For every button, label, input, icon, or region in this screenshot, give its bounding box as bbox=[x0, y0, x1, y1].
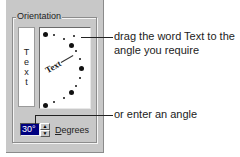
angle-marker-dot-icon bbox=[79, 77, 81, 79]
vertical-text-letter: T bbox=[24, 47, 30, 57]
vertical-text-letter: x bbox=[24, 67, 29, 77]
orientation-group-label: Orientation bbox=[16, 11, 62, 22]
degrees-label-rest: egrees bbox=[62, 125, 90, 135]
triangle-down-icon: ▼ bbox=[43, 130, 48, 136]
annotation-drag-line1: drag the word Text to the bbox=[114, 30, 235, 43]
callout-line-angle bbox=[35, 115, 113, 116]
degrees-input[interactable]: 30° bbox=[20, 123, 40, 136]
vertical-text-option[interactable]: T e x t bbox=[18, 27, 35, 107]
angle-indicator-line bbox=[61, 55, 74, 63]
angle-marker-dot-icon bbox=[53, 101, 55, 103]
degrees-spinner[interactable]: 30° ▲ ▼ bbox=[20, 123, 50, 136]
vertical-text-letter: t bbox=[25, 77, 28, 87]
triangle-up-icon: ▲ bbox=[43, 123, 48, 129]
angle-marker-dot-icon bbox=[73, 35, 75, 37]
angle-marker-neg45-icon[interactable] bbox=[69, 90, 74, 95]
angle-marker-dot-icon bbox=[75, 85, 77, 87]
callout-line-angle-vertical bbox=[35, 115, 36, 124]
angle-marker-90-icon[interactable] bbox=[43, 32, 48, 37]
angle-marker-dot-icon bbox=[63, 38, 65, 40]
angle-marker-45-icon[interactable] bbox=[69, 43, 74, 48]
angle-marker-0-icon[interactable] bbox=[79, 66, 84, 71]
spin-down-button[interactable]: ▼ bbox=[40, 130, 50, 137]
angle-marker-dot-icon bbox=[63, 97, 65, 99]
angle-marker-dot-icon bbox=[79, 58, 81, 60]
orientation-dial[interactable]: Text bbox=[39, 27, 91, 109]
annotation-enter-angle: or enter an angle bbox=[114, 108, 197, 121]
angle-marker-dot-icon bbox=[75, 50, 77, 52]
annotation-drag-line2: angle you require bbox=[114, 44, 199, 57]
angle-marker-neg90-icon[interactable] bbox=[43, 103, 48, 108]
spin-up-button[interactable]: ▲ bbox=[40, 123, 50, 130]
vertical-text-letter: e bbox=[24, 57, 29, 67]
angle-marker-dot-icon bbox=[53, 34, 55, 36]
degrees-label: Degrees bbox=[55, 125, 89, 135]
draggable-text-handle[interactable]: Text bbox=[44, 58, 63, 75]
callout-line-drag-ext bbox=[103, 37, 113, 38]
callout-line-drag bbox=[81, 37, 103, 38]
